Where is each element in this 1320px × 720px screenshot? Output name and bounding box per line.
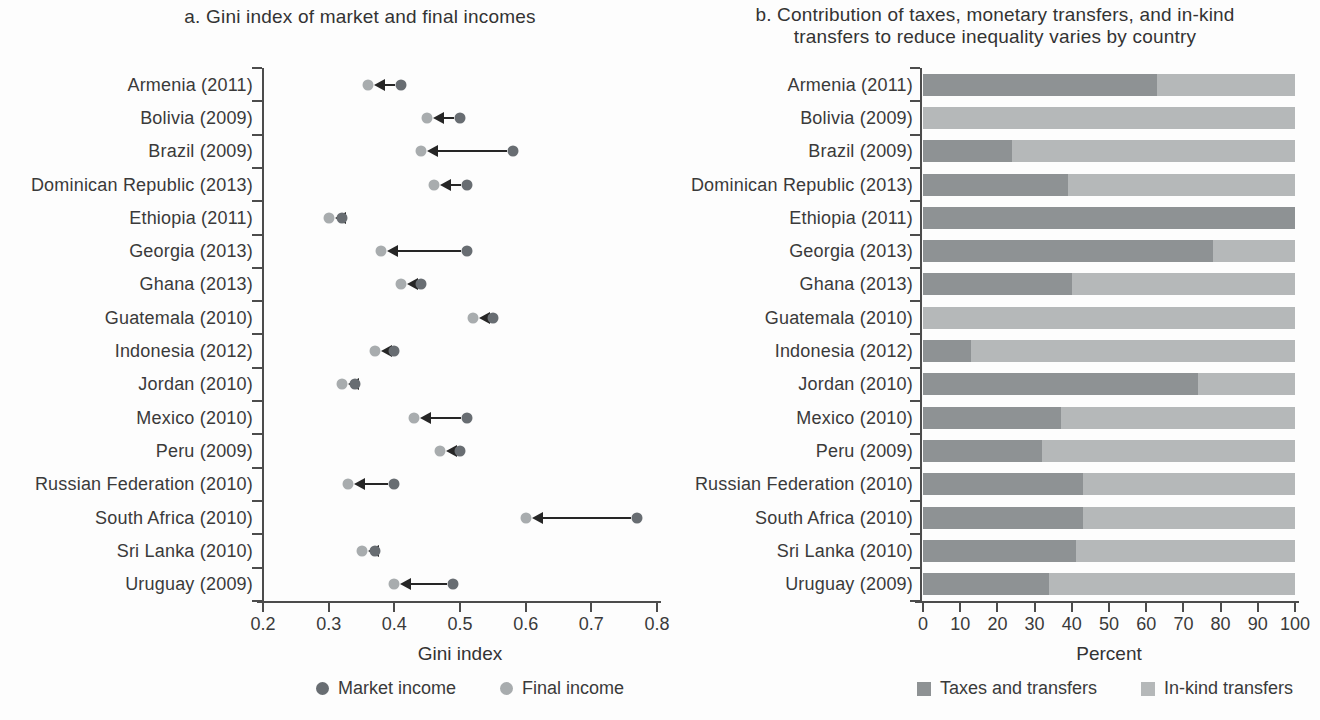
x-tick xyxy=(1145,603,1147,612)
inkind-segment xyxy=(971,340,1295,362)
inkind-segment xyxy=(1157,74,1295,96)
inkind-segment xyxy=(1076,540,1295,562)
x-tick-label: 20 xyxy=(987,614,1007,635)
taxes-segment xyxy=(923,573,1049,595)
inkind-segment xyxy=(1083,507,1295,529)
category-boundary-tick xyxy=(910,400,920,402)
category-label: Mexico (2010) xyxy=(796,407,913,428)
inkind-segment xyxy=(1061,407,1295,429)
taxes-segment xyxy=(923,174,1068,196)
category-boundary-tick xyxy=(910,134,920,136)
panel-b-legend: Taxes and transfers In-kind transfers xyxy=(890,678,1320,699)
taxes-segment xyxy=(923,440,1042,462)
category-boundary-tick xyxy=(910,167,920,169)
category-label: Brazil (2009) xyxy=(808,141,913,162)
taxes-transfers-square-icon xyxy=(917,682,931,696)
legend-item-inkind-transfers: In-kind transfers xyxy=(1141,678,1293,699)
inkind-segment xyxy=(923,307,1295,329)
category-label: Jordan (2010) xyxy=(798,374,913,395)
inkind-segment xyxy=(923,107,1295,129)
taxes-segment xyxy=(923,273,1072,295)
x-tick-label: 90 xyxy=(1248,614,1268,635)
inkind-segment xyxy=(1012,140,1295,162)
x-tick-label: 50 xyxy=(1099,614,1119,635)
taxes-segment xyxy=(923,540,1076,562)
category-boundary-tick xyxy=(910,267,920,269)
taxes-segment xyxy=(923,340,971,362)
taxes-segment xyxy=(923,207,1295,229)
x-tick xyxy=(1220,603,1222,612)
x-tick xyxy=(1108,603,1110,612)
panel-b-x-axis-label: Percent xyxy=(1076,643,1141,665)
inkind-segment xyxy=(1213,240,1295,262)
taxes-segment xyxy=(923,407,1061,429)
x-tick-label: 40 xyxy=(1062,614,1082,635)
inkind-segment xyxy=(1083,473,1295,495)
category-label: Georgia (2013) xyxy=(789,241,913,262)
x-tick xyxy=(1294,603,1296,612)
x-tick-label: 10 xyxy=(950,614,970,635)
category-boundary-tick xyxy=(910,67,920,69)
category-label: Ghana (2013) xyxy=(800,274,913,295)
category-label: Bolivia (2009) xyxy=(800,107,913,128)
x-tick-label: 80 xyxy=(1211,614,1231,635)
taxes-segment xyxy=(923,373,1198,395)
x-tick-label: 0 xyxy=(918,614,928,635)
inkind-segment xyxy=(1042,440,1295,462)
category-label: Sri Lanka (2010) xyxy=(777,540,913,561)
category-label: Guatemala (2010) xyxy=(765,307,913,328)
legend-label: Taxes and transfers xyxy=(940,678,1097,699)
category-label: Uruguay (2009) xyxy=(785,574,913,595)
category-label: Peru (2009) xyxy=(816,440,913,461)
category-boundary-tick xyxy=(910,500,920,502)
category-label: Indonesia (2012) xyxy=(775,341,913,362)
panel-b-y-axis xyxy=(920,68,922,601)
inkind-segment xyxy=(1198,373,1295,395)
taxes-segment xyxy=(923,507,1083,529)
legend-item-taxes-and-transfers: Taxes and transfers xyxy=(917,678,1097,699)
category-boundary-tick xyxy=(910,533,920,535)
category-label: Dominican Republic (2013) xyxy=(691,174,913,195)
category-boundary-tick xyxy=(910,200,920,202)
category-boundary-tick xyxy=(910,467,920,469)
x-tick-label: 30 xyxy=(1025,614,1045,635)
category-label: Armenia (2011) xyxy=(787,74,913,95)
x-tick xyxy=(959,603,961,612)
category-boundary-tick xyxy=(910,567,920,569)
x-tick xyxy=(922,603,924,612)
x-tick-label: 100 xyxy=(1280,614,1310,635)
x-tick xyxy=(1071,603,1073,612)
category-label: Ethiopia (2011) xyxy=(789,207,913,228)
inkind-segment xyxy=(1068,174,1295,196)
category-label: Russian Federation (2010) xyxy=(695,474,913,495)
inkind-segment xyxy=(1049,573,1295,595)
x-tick-label: 60 xyxy=(1136,614,1156,635)
category-boundary-tick xyxy=(910,333,920,335)
category-boundary-tick xyxy=(910,100,920,102)
taxes-segment xyxy=(923,140,1012,162)
inkind-transfers-square-icon xyxy=(1141,682,1155,696)
legend-label: In-kind transfers xyxy=(1164,678,1293,699)
x-tick xyxy=(1034,603,1036,612)
category-boundary-tick xyxy=(910,234,920,236)
category-boundary-tick xyxy=(910,600,920,602)
category-boundary-tick xyxy=(910,367,920,369)
category-boundary-tick xyxy=(910,300,920,302)
taxes-segment xyxy=(923,74,1157,96)
x-tick-label: 70 xyxy=(1173,614,1193,635)
category-label: South Africa (2010) xyxy=(755,507,913,528)
two-panel-gini-chart: a. Gini index of market and final income… xyxy=(0,0,1320,720)
category-boundary-tick xyxy=(910,433,920,435)
x-tick xyxy=(1257,603,1259,612)
x-tick xyxy=(996,603,998,612)
inkind-segment xyxy=(1072,273,1295,295)
x-tick xyxy=(1182,603,1184,612)
panel-b-plot: 0102030405060708090100Armenia (2011)Boli… xyxy=(0,0,1320,720)
taxes-segment xyxy=(923,240,1213,262)
taxes-segment xyxy=(923,473,1083,495)
panel-b-x-axis xyxy=(915,601,1299,603)
